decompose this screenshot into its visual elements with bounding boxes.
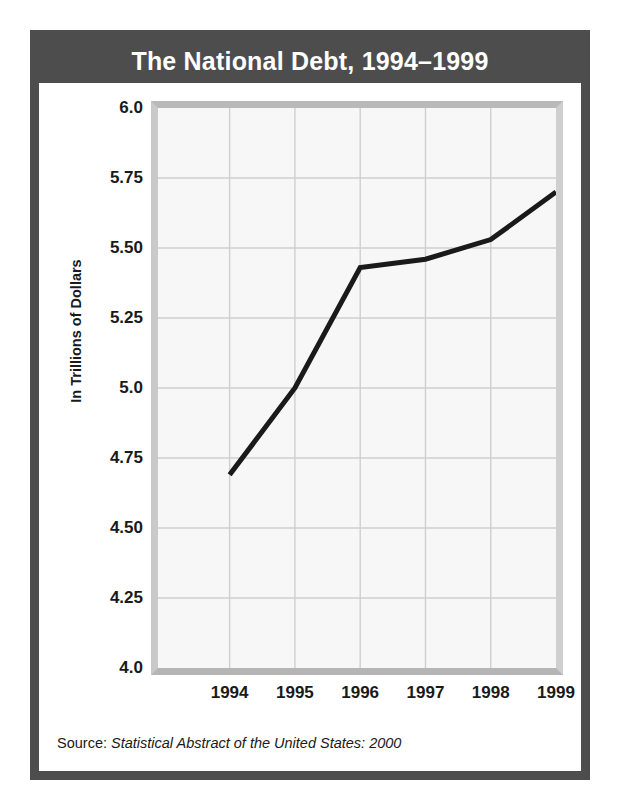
- y-axis-tick-4.25: 4.25: [110, 588, 143, 608]
- y-axis-tick-labels: 4.04.254.504.755.05.255.505.756.0: [67, 83, 143, 771]
- y-axis-tick-4.0: 4.0: [119, 658, 143, 678]
- y-axis-tick-6.0: 6.0: [119, 98, 143, 118]
- x-axis-tick-1995: 1995: [276, 683, 314, 703]
- y-axis-tick-4.50: 4.50: [110, 518, 143, 538]
- x-axis-tick-1999: 1999: [537, 683, 575, 703]
- y-axis-tick-5.0: 5.0: [119, 378, 143, 398]
- y-axis-tick-5.75: 5.75: [110, 168, 143, 188]
- chart-figure: The National Debt, 1994–1999 In Trillion…: [30, 30, 590, 780]
- source-prefix: Source:: [57, 735, 111, 751]
- x-axis-tick-1996: 1996: [341, 683, 379, 703]
- y-axis-tick-5.25: 5.25: [110, 308, 143, 328]
- y-axis-tick-5.50: 5.50: [110, 238, 143, 258]
- plot-area: [158, 108, 556, 668]
- x-axis-tick-1994: 1994: [211, 683, 249, 703]
- plot-frame: [151, 101, 563, 675]
- source-reference: Statistical Abstract of the United State…: [111, 735, 401, 751]
- chart-title-bar: The National Debt, 1994–1999: [39, 39, 581, 83]
- page-title: The National Debt, 1994–1999: [131, 47, 488, 76]
- source-note: Source: Statistical Abstract of the Unit…: [57, 735, 401, 751]
- x-axis-tick-1998: 1998: [472, 683, 510, 703]
- chart-plot-svg: [158, 108, 556, 668]
- chart-body: In Trillions of Dollars 4.04.254.504.755…: [39, 83, 581, 771]
- y-axis-tick-4.75: 4.75: [110, 448, 143, 468]
- x-axis-tick-1997: 1997: [407, 683, 445, 703]
- x-axis-tick-labels: 199419951996199719981999: [151, 683, 563, 713]
